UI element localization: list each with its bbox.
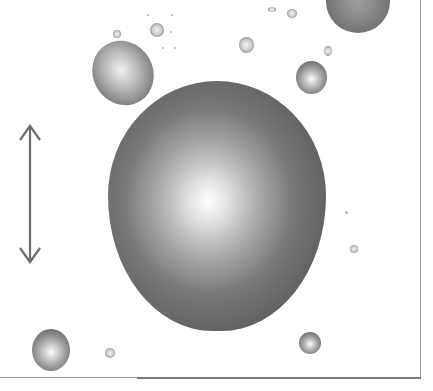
scale-arrow-icon bbox=[16, 122, 44, 266]
sphere-right bbox=[296, 61, 327, 94]
small-droplet bbox=[105, 348, 115, 358]
tiny-dot bbox=[162, 47, 164, 49]
small-droplet bbox=[239, 37, 254, 53]
tiny-dot bbox=[345, 211, 348, 214]
frame-edge bbox=[137, 377, 421, 379]
tiny-dot bbox=[170, 31, 172, 33]
small-droplet bbox=[150, 23, 164, 37]
tiny-dot bbox=[171, 14, 173, 16]
small-droplet bbox=[324, 46, 332, 56]
sphere-bottom-left bbox=[32, 329, 70, 371]
tiny-dot bbox=[147, 14, 149, 16]
small-droplet bbox=[113, 30, 121, 38]
small-droplet bbox=[350, 245, 358, 253]
small-droplet bbox=[268, 7, 276, 12]
sphere-bottom-right bbox=[299, 332, 321, 354]
tiny-dot bbox=[174, 47, 176, 49]
small-droplet bbox=[287, 9, 297, 18]
large-central-sphere bbox=[108, 81, 326, 331]
